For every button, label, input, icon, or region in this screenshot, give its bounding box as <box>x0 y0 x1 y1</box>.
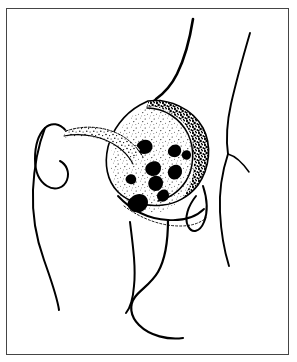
figure-border-frame <box>6 8 289 355</box>
figure-root <box>0 0 297 362</box>
